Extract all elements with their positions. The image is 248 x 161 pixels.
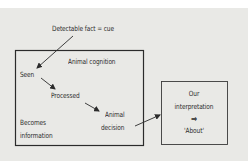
animal-cognition-title: Animal cognition	[68, 58, 115, 66]
cue-label: Detectable fact = cue	[52, 25, 114, 33]
step-decision-line1: Animal	[105, 111, 125, 119]
processed-to-decision-arrow	[85, 103, 99, 111]
interpretation-line2: interpretation	[164, 103, 223, 111]
seen-to-processed-arrow	[41, 78, 55, 89]
becomes-line2: information	[20, 132, 53, 140]
becomes-line1: Becomes	[20, 119, 46, 127]
step-seen: Seen	[20, 71, 34, 79]
step-processed: Processed	[51, 92, 80, 100]
implies-arrow-icon: ⇒	[164, 115, 223, 123]
interpretation-line1: Our	[164, 90, 223, 98]
interpretation-line3: 'About'	[164, 127, 223, 135]
step-decision-line2: decision	[101, 124, 124, 132]
decision-to-interpretation-arrow	[135, 115, 160, 126]
